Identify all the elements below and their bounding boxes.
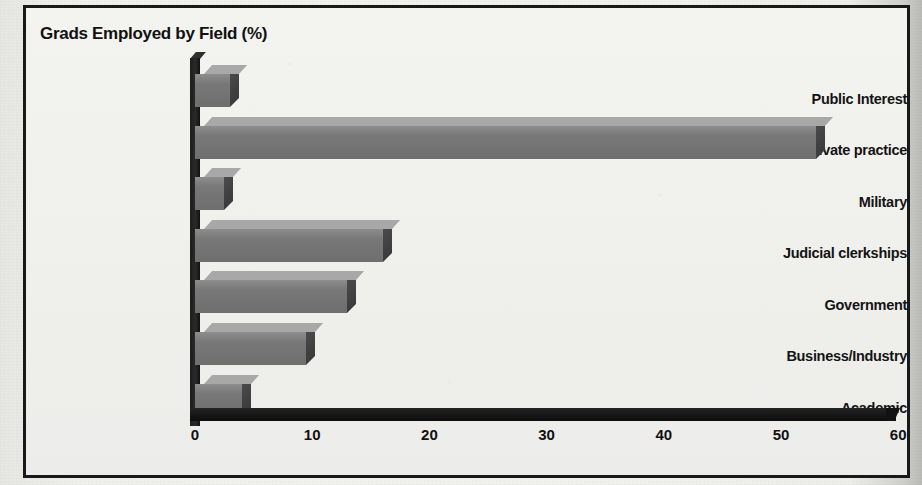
x-axis-tick-50: 50: [766, 426, 796, 443]
chart-page: Grads Employed by Field (%) Public Inter…: [0, 0, 922, 485]
bar-front-face: [195, 177, 224, 210]
bar-government: [195, 271, 347, 304]
bar-front-face: [195, 229, 383, 262]
bar-academic: [195, 375, 242, 408]
x-axis-tick-30: 30: [532, 426, 562, 443]
chart-frame: Grads Employed by Field (%) Public Inter…: [23, 5, 910, 478]
bar-top-face: [204, 323, 323, 332]
bar-front-face: [195, 280, 347, 313]
x-axis-tick-40: 40: [649, 426, 679, 443]
y-axis-label-business-industry: Business/Industry: [755, 348, 907, 364]
bar-front-face: [195, 332, 306, 365]
x-axis-tick-10: 10: [297, 426, 327, 443]
plot-area: Public Interest Private practice Militar…: [26, 8, 907, 475]
bar-top-face: [204, 65, 247, 74]
x-axis-floor: [190, 408, 896, 421]
bar-top-face: [204, 271, 364, 280]
x-axis-tick-0: 0: [180, 426, 210, 443]
y-axis-label-military: Military: [755, 194, 907, 210]
bar-private-practice: [195, 117, 816, 150]
bar-front-face: [195, 126, 816, 159]
bar-judicial-clerkships: [195, 220, 383, 253]
y-axis-label-public-interest: Public Interest: [755, 91, 907, 107]
x-axis-tick-20: 20: [414, 426, 444, 443]
bar-top-face: [204, 375, 259, 384]
bar-front-face: [195, 74, 230, 107]
bar-top-face: [204, 168, 241, 177]
y-axis-label-judicial-clerkships: Judicial clerkships: [755, 245, 907, 261]
y-axis-label-government: Government: [755, 297, 907, 313]
bar-public-interest: [195, 65, 230, 98]
x-axis-tick-60: 60: [883, 426, 913, 443]
bar-military: [195, 168, 224, 201]
bar-top-face: [204, 220, 400, 229]
bar-business-industry: [195, 323, 306, 356]
bar-top-face: [204, 117, 833, 126]
